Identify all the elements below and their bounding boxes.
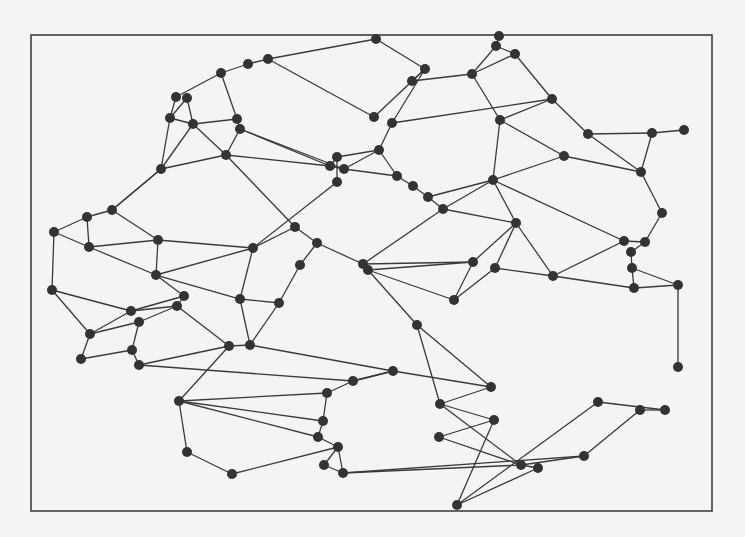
graph-edge: [253, 182, 337, 248]
graph-node: [332, 152, 342, 162]
graph-node: [511, 218, 521, 228]
graph-node: [179, 291, 189, 301]
graph-node: [188, 119, 198, 129]
graph-node: [579, 451, 589, 461]
graph-node: [363, 265, 373, 275]
graph-edge: [598, 402, 665, 410]
graph-edge: [641, 172, 662, 213]
graph-edge: [112, 169, 161, 210]
graph-node: [134, 317, 144, 327]
graph-node: [339, 164, 349, 174]
graph-node: [172, 301, 182, 311]
graph-edge: [428, 180, 493, 197]
graph-node: [165, 113, 175, 123]
graph-edge: [156, 275, 184, 296]
graph-edge: [90, 322, 139, 334]
graph-edge: [457, 468, 538, 505]
graph-node: [619, 236, 629, 246]
graph-edge: [584, 410, 640, 456]
graph-node: [295, 260, 305, 270]
graph-node: [47, 285, 57, 295]
graph-node: [333, 442, 343, 452]
graph-edge: [226, 155, 295, 227]
graph-edge: [156, 240, 158, 275]
graph-edge: [193, 119, 237, 124]
graph-edge: [54, 232, 89, 247]
graph-node: [127, 345, 137, 355]
graph-node: [629, 283, 639, 293]
graph-edge: [500, 120, 564, 156]
graph-node: [171, 92, 181, 102]
graph-edge: [440, 404, 494, 420]
graph-node: [392, 171, 402, 181]
graph-edge: [440, 387, 491, 404]
graph-node: [467, 69, 477, 79]
graph-edge: [54, 217, 87, 232]
graph-node: [174, 396, 184, 406]
graph-edge: [89, 247, 156, 275]
graph-node: [516, 460, 526, 470]
graph-edge: [176, 73, 221, 97]
graph-edge: [495, 223, 516, 268]
graph-node: [673, 280, 683, 290]
graph-edge: [253, 227, 295, 248]
graph-node: [126, 306, 136, 316]
graph-node: [468, 257, 478, 267]
graph-edge: [393, 371, 491, 387]
graph-edge: [179, 401, 318, 437]
graph-node: [636, 167, 646, 177]
graph-node: [290, 222, 300, 232]
graph-node: [227, 469, 237, 479]
graph-node: [559, 151, 569, 161]
graph-edge: [472, 54, 515, 74]
graph-node: [82, 212, 92, 222]
graph-node: [332, 177, 342, 187]
graph-node: [319, 460, 329, 470]
graph-node: [325, 161, 335, 171]
graph-edge: [472, 46, 496, 74]
graph-edge: [279, 265, 300, 303]
graph-edge: [250, 345, 393, 371]
graph-edge: [553, 241, 624, 276]
graph-edge: [89, 240, 158, 247]
graph-node: [495, 115, 505, 125]
graph-node: [107, 205, 117, 215]
graph-edge: [553, 276, 634, 288]
graph-edge: [193, 124, 226, 155]
graph-node: [490, 263, 500, 273]
graph-edge: [81, 350, 132, 359]
graph-edge: [457, 402, 598, 505]
graph-node: [635, 405, 645, 415]
graph-node: [593, 397, 603, 407]
graph-node: [627, 263, 637, 273]
graph-node: [387, 118, 397, 128]
graph-node: [312, 238, 322, 248]
graph-node: [245, 340, 255, 350]
graph-node: [338, 468, 348, 478]
graph-edge: [179, 393, 327, 401]
graph-edge: [417, 325, 491, 387]
graph-edge: [226, 155, 330, 166]
graph-edge: [161, 124, 193, 169]
graph-node: [371, 34, 381, 44]
graph-edge: [454, 262, 473, 300]
graph-edge: [52, 232, 54, 290]
graph-edge: [161, 155, 226, 169]
graph-node: [510, 49, 520, 59]
graph-edge: [268, 59, 374, 117]
graph-edge: [268, 39, 376, 59]
graph-edge: [500, 99, 552, 120]
graph-node: [388, 366, 398, 376]
graph-node: [49, 227, 59, 237]
graph-node: [452, 500, 462, 510]
graph-edge: [443, 209, 516, 223]
graph-edge: [240, 248, 253, 299]
graph-edge: [454, 268, 495, 300]
graph-edge: [588, 133, 652, 134]
graph-node: [274, 298, 284, 308]
graph-node: [348, 376, 358, 386]
graph-node: [491, 41, 501, 51]
graph-node: [248, 243, 258, 253]
graph-edge: [179, 401, 187, 452]
graph-node: [488, 175, 498, 185]
